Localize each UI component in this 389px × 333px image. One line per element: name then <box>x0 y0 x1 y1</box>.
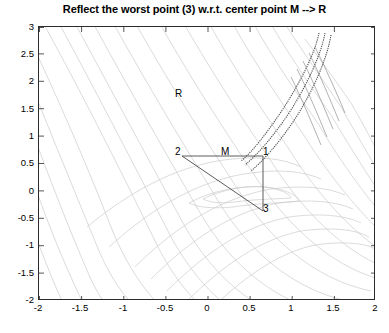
xtick-label--2: -2 <box>18 302 58 313</box>
contour-lines-light <box>39 27 375 300</box>
ytick-label-2.5: 2.5 <box>0 48 34 59</box>
contour-valley-dark <box>241 33 331 171</box>
ytick-label-2: 2 <box>0 75 34 86</box>
xtick-label-0.5: 0.5 <box>229 302 269 313</box>
ytick-label-1.5: 1.5 <box>0 103 34 114</box>
ytick-label-3: 3 <box>0 21 34 32</box>
ytick-label--0.5: -0.5 <box>0 212 34 223</box>
xtick-label-2: 2 <box>355 302 389 313</box>
annotation-label-3: 3 <box>263 203 269 214</box>
chart-title: Reflect the worst point (3) w.r.t. cente… <box>0 3 389 15</box>
xtick-label--1: -1 <box>103 302 143 313</box>
annotation-label-2: 2 <box>175 146 181 157</box>
ytick-label--1.5: -1.5 <box>0 267 34 278</box>
annotation-label-1: 1 <box>263 146 269 157</box>
ytick-label-0: 0 <box>0 185 34 196</box>
annotation-label-r: R <box>175 88 182 99</box>
annotation-label-m: M <box>221 146 229 157</box>
xtick-label--1.5: -1.5 <box>60 302 100 313</box>
xtick-label--0.5: -0.5 <box>145 302 185 313</box>
ytick-label--1: -1 <box>0 239 34 250</box>
figure-container: Reflect the worst point (3) w.r.t. cente… <box>0 0 389 333</box>
plot-area <box>38 26 375 300</box>
xtick-label-1.5: 1.5 <box>313 302 353 313</box>
xtick-label-0: 0 <box>187 302 227 313</box>
ytick-label-0.5: 0.5 <box>0 157 34 168</box>
contour-plot-svg <box>39 27 375 300</box>
ytick-label-1: 1 <box>0 130 34 141</box>
xtick-label-1: 1 <box>271 302 311 313</box>
